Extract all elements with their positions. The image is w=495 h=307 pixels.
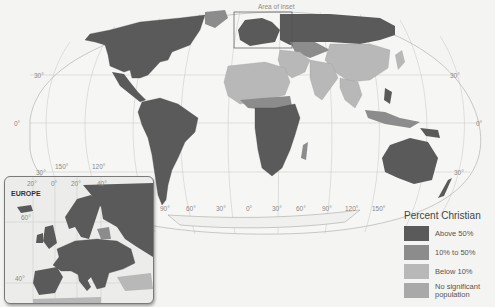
inset-turkey	[117, 273, 153, 291]
legend-label: Below 10%	[435, 268, 473, 276]
lat-label-right-30n: 30°	[450, 72, 460, 79]
legend-item-below-10: Below 10%	[404, 262, 495, 281]
inset-area-label: Area of inset	[258, 3, 295, 10]
inset-scandinavia	[65, 195, 101, 239]
legend-item-10-to-50: 10% to 50%	[404, 243, 495, 262]
inset-lon-label-20w: 20°	[27, 180, 37, 187]
inset-iceland	[17, 205, 33, 213]
legend: Percent Christian Above 50% 10% to 50% B…	[404, 210, 495, 300]
lon-label-0: 0°	[246, 205, 253, 212]
lat-label-right-0: 0°	[476, 120, 483, 127]
inset-lat-label-40n: 40°	[15, 275, 25, 282]
lon-label-120w: 120°	[92, 163, 106, 170]
russia	[280, 14, 395, 45]
inset-baltics	[97, 227, 111, 239]
legend-swatch-below-10	[404, 264, 429, 279]
inset-iberia	[33, 267, 63, 295]
europe-inset: 20° 0° 20° 40° 60° 40° EUROPE	[4, 176, 154, 304]
lon-label-120e: 120°	[345, 205, 359, 212]
legend-item-above-50: Above 50%	[404, 224, 495, 243]
legend-label: Above 50%	[435, 230, 473, 238]
lon-label-60e: 60°	[296, 205, 306, 212]
inset-lon-label-40e: 40°	[97, 180, 107, 187]
lon-label-30e: 30°	[272, 205, 282, 212]
legend-swatch-10-to-50	[404, 245, 429, 260]
lon-label-30w: 30°	[216, 205, 226, 212]
legend-item-no-significant: No significant population	[404, 281, 495, 300]
lon-label-150e: 150°	[372, 205, 386, 212]
legend-swatch-above-50	[404, 226, 429, 241]
legend-label: No significant population	[435, 283, 495, 299]
inset-lon-label-0: 0°	[51, 180, 58, 187]
legend-title: Percent Christian	[404, 210, 495, 221]
lat-label-30s: 30°	[36, 169, 46, 176]
lon-label-150w: 150°	[55, 163, 69, 170]
lon-label-90w: 90°	[160, 205, 170, 212]
lon-label-90e: 90°	[322, 205, 332, 212]
lat-label-right-30s: 30°	[454, 169, 464, 176]
lon-label-60w: 60°	[186, 205, 196, 212]
inset-lon-label-20e: 20°	[71, 180, 81, 187]
lat-label-30n: 30°	[34, 72, 44, 79]
inset-ireland	[36, 233, 43, 243]
inset-lat-label-60n: 60°	[21, 214, 31, 221]
inset-title: EUROPE	[11, 190, 41, 197]
legend-label: 10% to 50%	[435, 249, 475, 257]
lat-label-0: 0°	[14, 120, 21, 127]
legend-swatch-no-significant	[404, 283, 429, 298]
inset-north-africa	[33, 297, 101, 303]
